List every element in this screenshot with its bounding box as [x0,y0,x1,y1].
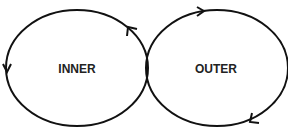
figure-eight-diagram: INNER OUTER [0,0,288,132]
inner-loop: INNER [3,10,148,126]
outer-label: OUTER [195,62,237,76]
outer-loop: OUTER [146,7,288,126]
inner-label: INNER [58,62,96,76]
